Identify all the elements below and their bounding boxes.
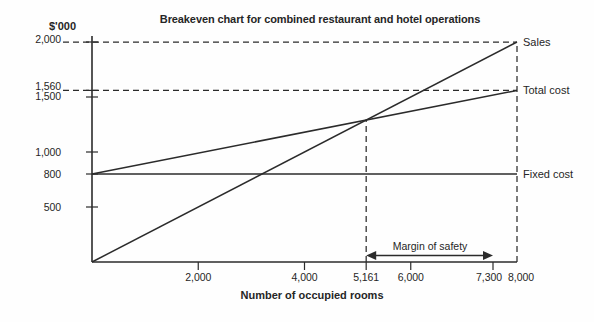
- plot-area: 2,0001,5601,5001,0008005002,0004,0005,16…: [0, 0, 594, 322]
- x-tick-label: 8,000: [508, 271, 534, 283]
- line-total-cost: [92, 90, 517, 174]
- margin-of-safety-label: Margin of safety: [356, 240, 504, 252]
- series-label-fixed-cost: Fixed cost: [523, 168, 573, 181]
- x-axis-title: Number of occupied rooms: [212, 289, 412, 301]
- series-label-total-cost: Total cost: [523, 84, 569, 97]
- y-tick-label: 1,500: [35, 90, 61, 102]
- x-tick-label: 7,300: [476, 271, 502, 283]
- x-tick-label: 6,000: [398, 271, 424, 283]
- x-tick-label: 2,000: [185, 271, 211, 283]
- breakeven-chart: Breakeven chart for combined restaurant …: [0, 0, 594, 322]
- margin-arrow-left-head: [366, 251, 376, 260]
- x-tick-label: 5,161: [353, 271, 379, 283]
- x-tick-label: 4,000: [292, 271, 318, 283]
- y-tick-label: 800: [44, 168, 61, 180]
- margin-arrow-right-head: [483, 251, 493, 260]
- y-tick-label: 1,000: [35, 146, 61, 158]
- y-tick-label: 2,000: [35, 33, 61, 45]
- line-sales: [92, 42, 517, 262]
- series-label-sales: Sales: [523, 36, 551, 49]
- y-tick-label: 500: [44, 201, 61, 213]
